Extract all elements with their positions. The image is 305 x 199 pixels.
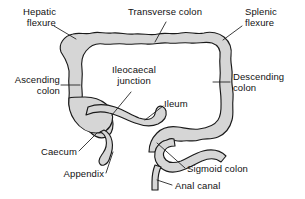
label-hepatic-flexure: Hepatic flexure — [6, 6, 56, 28]
label-anal-canal: Anal canal — [175, 180, 245, 191]
label-ileocaecal-junction: Ileocaecal junction — [101, 64, 167, 86]
leader-splenic-flexure — [223, 26, 242, 40]
label-ascending-colon: Ascending colon — [2, 74, 60, 96]
label-ileum: Ileum — [164, 98, 204, 109]
label-descending-colon: Descending colon — [233, 71, 301, 93]
leader-anal-canal — [157, 180, 172, 185]
anatomy-diagram: Hepatic flexure Transverse colon Splenic… — [0, 0, 305, 199]
colon-outline — [60, 32, 233, 152]
leader-caecum — [79, 133, 97, 151]
leader-hepatic-flexure — [54, 26, 76, 39]
label-appendix: Appendix — [50, 168, 104, 179]
label-sigmoid-colon: Sigmoid colon — [187, 163, 267, 174]
anal-canal-shape — [152, 165, 161, 190]
caecum-pouch — [69, 97, 113, 133]
label-transverse-colon: Transverse colon — [115, 6, 215, 17]
label-caecum: Caecum — [25, 146, 77, 157]
label-splenic-flexure: Splenic flexure — [245, 6, 301, 28]
